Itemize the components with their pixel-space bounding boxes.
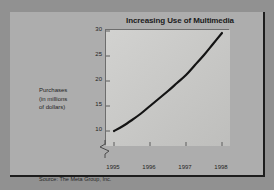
plot-area	[105, 29, 229, 145]
y-axis-break-icon	[98, 140, 112, 158]
screenshot-root: Increasing Use of Multimedia Purchases (…	[0, 0, 274, 190]
x-tick-label-1995: 1995	[100, 164, 126, 170]
x-tick-label-1998: 1998	[208, 164, 234, 170]
y-tick-label-10: 10	[86, 126, 102, 132]
y-tick-label-20: 20	[86, 76, 102, 82]
source-note: Source: The Meta Group, Inc.	[39, 176, 111, 182]
chart-title: Increasing Use of Multimedia	[105, 16, 255, 25]
y-tick-label-15: 15	[86, 101, 102, 107]
slide-panel: Increasing Use of Multimedia Purchases (…	[10, 12, 265, 177]
plot-canvas	[106, 30, 230, 146]
y-axis-tick-labels: 30 25 20 15 10	[84, 29, 102, 145]
x-tick-label-1997: 1997	[172, 164, 198, 170]
x-axis-tick-labels: 1995 1996 1997 1998	[105, 164, 229, 174]
y-tick-label-25: 25	[86, 51, 102, 57]
y-tick-label-30: 30	[86, 26, 102, 32]
x-tick-label-1996: 1996	[136, 164, 162, 170]
